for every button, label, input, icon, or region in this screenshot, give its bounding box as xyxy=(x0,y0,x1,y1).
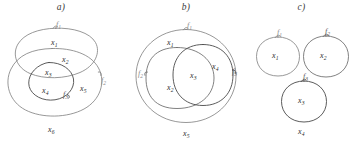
label-x4: x4 xyxy=(42,87,48,95)
label-f3: f3 xyxy=(232,68,237,76)
label-x2: x2 xyxy=(62,56,68,64)
label-f3: f3 xyxy=(303,73,308,81)
label-x1: x1 xyxy=(167,39,173,47)
label-x5: x5 xyxy=(80,85,86,93)
label-x2: x2 xyxy=(320,52,326,60)
label-f3: f3 xyxy=(63,91,68,99)
curve-f2 xyxy=(8,48,102,116)
label-x1: x1 xyxy=(272,52,278,60)
label-x3: x3 xyxy=(190,72,196,80)
label-f1: f1 xyxy=(187,22,192,30)
label-f2: f2 xyxy=(101,77,106,85)
set-diagram-figure: a) f1 f2 f3 x1 xyxy=(0,0,353,145)
curve-f3 xyxy=(173,45,233,106)
panel-b: b) f1 f2 f3 x1 x2 xyxy=(122,0,250,145)
label-x6: x6 xyxy=(48,126,54,134)
label-x4: x4 xyxy=(298,128,304,136)
label-x4: x4 xyxy=(212,63,218,71)
tick-f2 xyxy=(98,72,101,76)
label-x1: x1 xyxy=(51,39,57,47)
label-x3: x3 xyxy=(298,97,304,105)
panel-c-curves xyxy=(250,0,353,145)
curve-f2 xyxy=(146,48,214,109)
curve-f1 xyxy=(136,30,236,123)
label-f1: f1 xyxy=(277,29,282,37)
label-f1: f1 xyxy=(56,21,61,29)
label-f2: f2 xyxy=(138,70,143,78)
panel-a: a) f1 f2 f3 x1 xyxy=(0,0,122,145)
label-x5: x5 xyxy=(183,130,189,138)
label-f2: f2 xyxy=(325,28,330,36)
panel-c: c) f1 f2 f3 x1 x2 xyxy=(250,0,353,145)
label-x3: x3 xyxy=(45,69,51,77)
label-x2: x2 xyxy=(167,84,173,92)
